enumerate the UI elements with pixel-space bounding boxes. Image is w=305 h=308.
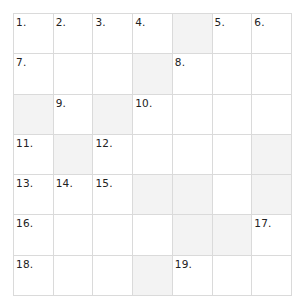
crossword-cell[interactable]: 6. bbox=[252, 14, 292, 54]
block-cell bbox=[173, 175, 213, 215]
crossword-cell[interactable] bbox=[133, 215, 173, 255]
crossword-cell[interactable] bbox=[252, 54, 292, 94]
crossword-cell[interactable]: 13. bbox=[14, 175, 54, 215]
block-cell bbox=[93, 95, 133, 135]
crossword-cell[interactable]: 14. bbox=[54, 175, 94, 215]
crossword-cell[interactable]: 9. bbox=[54, 95, 94, 135]
clue-number: 6. bbox=[254, 16, 264, 28]
crossword-cell[interactable]: 5. bbox=[213, 14, 253, 54]
crossword-grid: 1.2.3.4.5.6.7.8.9.10.11.12.13.14.15.16.1… bbox=[13, 13, 292, 296]
crossword-cell[interactable]: 12. bbox=[93, 135, 133, 175]
crossword-cell[interactable]: 3. bbox=[93, 14, 133, 54]
clue-number: 16. bbox=[16, 217, 33, 229]
clue-number: 18. bbox=[16, 258, 33, 270]
crossword-cell[interactable]: 16. bbox=[14, 215, 54, 255]
clue-number: 7. bbox=[16, 56, 26, 68]
clue-number: 9. bbox=[56, 97, 66, 109]
clue-number: 19. bbox=[175, 258, 192, 270]
crossword-cell[interactable] bbox=[93, 256, 133, 296]
crossword-cell[interactable] bbox=[54, 256, 94, 296]
clue-number: 1. bbox=[16, 16, 26, 28]
crossword-cell[interactable] bbox=[213, 135, 253, 175]
crossword-cell[interactable]: 4. bbox=[133, 14, 173, 54]
crossword-cell[interactable] bbox=[213, 95, 253, 135]
block-cell bbox=[252, 175, 292, 215]
crossword-cell[interactable]: 15. bbox=[93, 175, 133, 215]
crossword-cell[interactable]: 2. bbox=[54, 14, 94, 54]
crossword-cell[interactable] bbox=[173, 95, 213, 135]
crossword-cell[interactable] bbox=[93, 54, 133, 94]
block-cell bbox=[213, 215, 253, 255]
clue-number: 11. bbox=[16, 137, 33, 149]
crossword-cell[interactable]: 17. bbox=[252, 215, 292, 255]
clue-number: 15. bbox=[95, 177, 112, 189]
clue-number: 4. bbox=[135, 16, 145, 28]
block-cell bbox=[133, 256, 173, 296]
block-cell bbox=[54, 135, 94, 175]
crossword-cell[interactable]: 10. bbox=[133, 95, 173, 135]
clue-number: 14. bbox=[56, 177, 73, 189]
block-cell bbox=[173, 215, 213, 255]
crossword-cell[interactable] bbox=[133, 135, 173, 175]
clue-number: 5. bbox=[215, 16, 225, 28]
block-cell bbox=[252, 135, 292, 175]
crossword-cell[interactable]: 7. bbox=[14, 54, 54, 94]
crossword-cell[interactable] bbox=[252, 256, 292, 296]
clue-number: 13. bbox=[16, 177, 33, 189]
block-cell bbox=[133, 175, 173, 215]
clue-number: 8. bbox=[175, 56, 185, 68]
crossword-cell[interactable]: 11. bbox=[14, 135, 54, 175]
crossword-cell[interactable] bbox=[54, 54, 94, 94]
crossword-cell[interactable] bbox=[54, 215, 94, 255]
block-cell bbox=[133, 54, 173, 94]
crossword-cell[interactable] bbox=[252, 95, 292, 135]
crossword-cell[interactable] bbox=[173, 135, 213, 175]
crossword-cell[interactable] bbox=[213, 54, 253, 94]
clue-number: 2. bbox=[56, 16, 66, 28]
crossword-cell[interactable]: 1. bbox=[14, 14, 54, 54]
crossword-cell[interactable] bbox=[213, 256, 253, 296]
crossword-cell[interactable] bbox=[93, 215, 133, 255]
clue-number: 12. bbox=[95, 137, 112, 149]
crossword-cell[interactable] bbox=[213, 175, 253, 215]
clue-number: 10. bbox=[135, 97, 152, 109]
block-cell bbox=[173, 14, 213, 54]
block-cell bbox=[14, 95, 54, 135]
crossword-cell[interactable]: 19. bbox=[173, 256, 213, 296]
clue-number: 17. bbox=[254, 217, 271, 229]
crossword-cell[interactable]: 8. bbox=[173, 54, 213, 94]
crossword-cell[interactable]: 18. bbox=[14, 256, 54, 296]
clue-number: 3. bbox=[95, 16, 105, 28]
